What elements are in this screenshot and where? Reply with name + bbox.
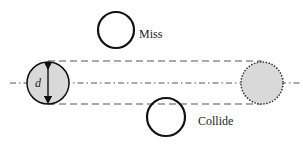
moving-particle-start: d xyxy=(27,62,69,104)
miss-particle xyxy=(98,12,134,48)
collide-particle xyxy=(147,98,185,136)
diameter-label: d xyxy=(35,76,42,90)
moving-particle-end xyxy=(241,62,283,104)
collide-label: Collide xyxy=(198,114,233,128)
miss-label: Miss xyxy=(139,27,163,41)
collision-cylinder-diagram: d Miss Collide xyxy=(0,0,303,149)
